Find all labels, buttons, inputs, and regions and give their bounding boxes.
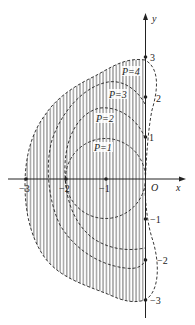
y-axis-label: y bbox=[151, 13, 157, 24]
x-tick-label: −1 bbox=[99, 183, 110, 194]
diagram-canvas: y x O −3 −2 −1 3 2 1 −1 −2 −3 P=1 P=2 P=… bbox=[0, 0, 195, 325]
y-tick-label: −3 bbox=[150, 295, 161, 306]
y-tick-label: 1 bbox=[149, 132, 154, 143]
curve-label-p3: P=3 bbox=[108, 89, 127, 100]
curve-label-p2: P=2 bbox=[95, 113, 114, 124]
y-axis-arrow-icon bbox=[143, 13, 148, 20]
y-tick-label: −2 bbox=[157, 255, 168, 266]
y-tick-label: 3 bbox=[150, 52, 155, 63]
origin-label: O bbox=[151, 182, 158, 193]
x-axis-label: x bbox=[175, 182, 181, 193]
y-tick-label: 2 bbox=[156, 93, 161, 104]
x-tick-label: −2 bbox=[59, 183, 70, 194]
y-tick-label: −1 bbox=[150, 214, 161, 225]
x-tick-label: −3 bbox=[19, 183, 30, 194]
curve-label-p1: P=1 bbox=[93, 142, 112, 153]
curve-label-p4: P=4 bbox=[121, 66, 140, 77]
x-axis-arrow-icon bbox=[179, 177, 186, 182]
